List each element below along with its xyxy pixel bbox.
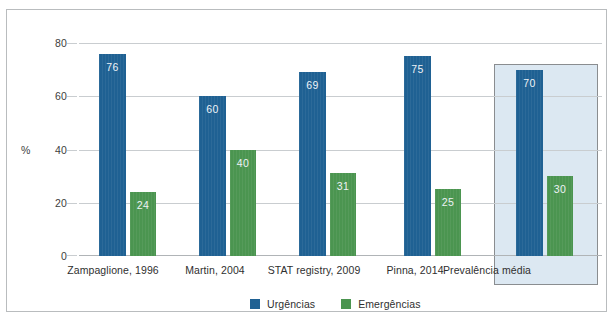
tick-stub-20: [67, 203, 77, 204]
y-tick-60: 60: [55, 90, 67, 102]
y-tick-80: 80: [55, 37, 67, 49]
bar-urgencias-zampaglione-1996[interactable]: 76: [99, 54, 126, 256]
chart-figure: 80 60 40 20 0 % 76: [0, 0, 616, 321]
bar-emergencias-pinna-2014[interactable]: 25: [435, 189, 461, 256]
legend-item-urgencias[interactable]: Urgências: [250, 298, 315, 310]
legend-label-emergencias: Emergências: [358, 298, 420, 310]
chart-legend: Urgências Emergências: [250, 298, 421, 310]
y-axis-title: %: [21, 144, 30, 156]
bar-value: 69: [299, 79, 326, 91]
plot-area: 76 24 60 40 69 31 75 2: [79, 43, 602, 256]
bar-urgencias-pinna-2014[interactable]: 75: [404, 56, 431, 256]
tick-stub-0: [67, 255, 77, 256]
bar-emergencias-stat-registry-2009[interactable]: 31: [330, 173, 356, 256]
bar-emergencias-zampaglione-1996[interactable]: 24: [130, 192, 156, 256]
bar-urgencias-stat-registry-2009[interactable]: 69: [299, 72, 326, 256]
legend-item-emergencias[interactable]: Emergências: [341, 298, 420, 310]
bar-urgencias-prevalencia-media[interactable]: 70: [516, 70, 543, 256]
tick-stub-60: [67, 96, 77, 97]
bar-emergencias-martin-2004[interactable]: 40: [230, 150, 256, 257]
gridline-80: [79, 43, 602, 44]
x-category-label-4: Prevalência média: [435, 264, 539, 276]
bar-value: 70: [516, 77, 543, 89]
bar-value: 40: [230, 157, 256, 169]
bar-value: 75: [404, 63, 431, 75]
y-tick-40: 40: [55, 144, 67, 156]
chart-frame: 80 60 40 20 0 % 76: [6, 9, 607, 312]
bar-value: 30: [547, 183, 573, 195]
bar-emergencias-prevalencia-media[interactable]: 30: [547, 176, 573, 256]
x-category-label-0: Zampaglione, 1996: [53, 264, 173, 276]
legend-swatch-icon-emergencias: [341, 299, 351, 309]
bar-value: 25: [435, 196, 461, 208]
bar-value: 76: [99, 61, 126, 73]
y-tick-0: 0: [61, 250, 67, 262]
bar-value: 60: [199, 103, 226, 115]
y-axis-tick-labels: 80 60 40 20 0: [25, 43, 67, 256]
legend-label-urgencias: Urgências: [267, 298, 315, 310]
bar-value: 24: [130, 199, 156, 211]
bar-value: 31: [330, 180, 356, 192]
bar-urgencias-martin-2004[interactable]: 60: [199, 96, 226, 256]
tick-stub-80: [67, 43, 77, 44]
y-tick-20: 20: [55, 197, 67, 209]
tick-stub-40: [67, 150, 77, 151]
legend-swatch-icon-urgencias: [250, 299, 260, 309]
